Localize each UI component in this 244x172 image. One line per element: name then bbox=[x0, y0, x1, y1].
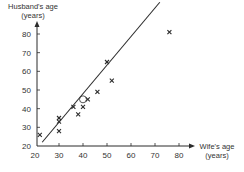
x-tick-label: 30 bbox=[55, 151, 64, 160]
data-point-x-marker bbox=[38, 133, 42, 137]
scatter-chart: Husband's age (years) Wife's age (years)… bbox=[0, 0, 244, 172]
axes bbox=[35, 21, 196, 149]
y-axis-title: Husband's age (years) bbox=[8, 2, 58, 20]
annotations bbox=[80, 96, 87, 103]
x-axis-title-line2: (years) bbox=[205, 151, 229, 160]
x-axis-title: Wife's age (years) bbox=[200, 142, 235, 160]
y-tick-label: 40 bbox=[22, 105, 31, 114]
data-point-x-marker bbox=[105, 60, 109, 64]
y-axis-title-line1: Husband's age bbox=[8, 2, 58, 11]
data-point-x-marker bbox=[57, 120, 61, 124]
x-tick-label: 20 bbox=[31, 151, 40, 160]
x-tick-label: 50 bbox=[103, 151, 112, 160]
x-axis-arrow-icon bbox=[189, 144, 195, 149]
data-point-x-marker bbox=[57, 129, 61, 133]
data-point-x-marker bbox=[110, 79, 114, 83]
data-point-x-marker bbox=[81, 105, 85, 109]
x-tick-label: 60 bbox=[127, 151, 136, 160]
x-axis-title-line1: Wife's age bbox=[200, 142, 235, 151]
y-axis-title-line2: (years) bbox=[21, 11, 45, 20]
y-axis-arrow-icon bbox=[35, 21, 40, 27]
x-tick-label: 70 bbox=[151, 151, 160, 160]
data-point-x-marker bbox=[57, 116, 61, 120]
y-tick-label: 70 bbox=[22, 49, 31, 58]
y-tick-label: 50 bbox=[22, 86, 31, 95]
data-point-x-marker bbox=[167, 30, 171, 34]
y-tick-label: 60 bbox=[22, 67, 31, 76]
y-tick-label: 20 bbox=[22, 142, 31, 151]
x-tick-label: 80 bbox=[175, 151, 184, 160]
data-point-x-marker bbox=[95, 90, 99, 94]
y-tick-label: 30 bbox=[22, 123, 31, 132]
y-tick-label: 80 bbox=[22, 30, 31, 39]
data-points bbox=[38, 30, 172, 137]
x-tick-label: 40 bbox=[79, 151, 88, 160]
data-point-x-marker bbox=[76, 112, 80, 116]
mean-point-circle-icon bbox=[80, 96, 87, 103]
